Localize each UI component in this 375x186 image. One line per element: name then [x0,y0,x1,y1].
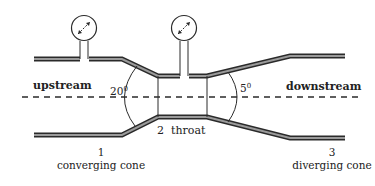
upstream-label: upstream [33,79,92,92]
converging-cone-label: 1 converging cone [56,146,146,172]
throat-pressure-gauge [172,16,197,77]
section-3-name: diverging cone [287,159,375,172]
downstream-label: downstream [286,80,361,93]
section-1-name: converging cone [56,159,146,172]
diverging-cone-label: 3 diverging cone [287,146,375,172]
throat-label: 2 throat [157,124,205,137]
diverging-angle-value: 5 [240,82,247,94]
throat-number: 2 [157,124,164,137]
top-wall [34,56,345,76]
converging-angle-label: 200 [110,85,128,97]
section-1-number: 1 [56,146,146,159]
degree-symbol: 0 [123,85,127,93]
degree-symbol: 0 [247,82,251,90]
converging-angle-value: 20 [110,85,123,97]
section-3-number: 3 [287,146,375,159]
throat-name: throat [171,124,205,137]
upstream-pressure-gauge [72,16,97,60]
diverging-angle-label: 50 [240,82,251,94]
